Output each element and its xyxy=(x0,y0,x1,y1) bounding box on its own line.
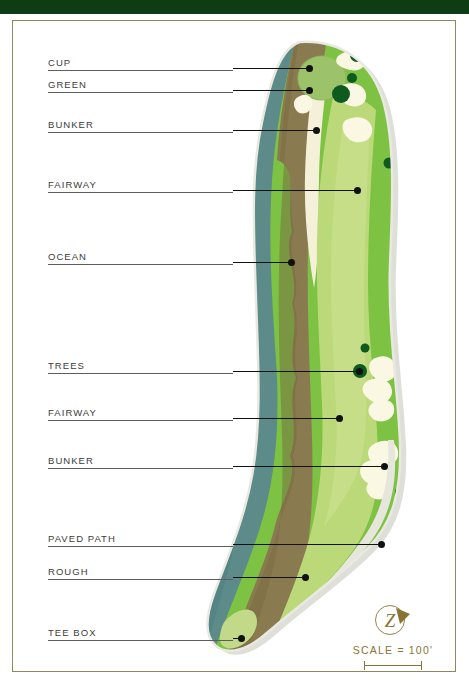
scale-label: SCALE = 100' xyxy=(339,644,447,656)
north-pointer-icon xyxy=(396,608,410,624)
leader-endpoint-dot xyxy=(336,415,343,422)
callout-label: OCEAN xyxy=(48,251,87,262)
callout-label: ROUGH xyxy=(48,566,89,577)
callout-underline xyxy=(48,132,233,133)
leader-line-rough xyxy=(233,577,306,578)
callout-label: PAVED PATH xyxy=(48,533,116,544)
callout-underline xyxy=(48,579,233,580)
scale-bar-line xyxy=(364,665,422,666)
leader-line-cup xyxy=(233,68,310,69)
callout-underline xyxy=(48,546,233,547)
leader-line-green xyxy=(233,90,310,91)
callout-underline xyxy=(48,640,233,641)
leader-endpoint-dot xyxy=(288,259,295,266)
callout-label: TEE BOX xyxy=(48,627,97,638)
callout-underline xyxy=(48,70,233,71)
leader-endpoint-dot xyxy=(381,463,388,470)
callout-underline xyxy=(48,420,233,421)
callout-label: BUNKER xyxy=(48,455,94,466)
callout-label: CUP xyxy=(48,57,71,68)
leader-line-ocean xyxy=(233,262,292,263)
callout-underline xyxy=(48,192,233,193)
diagram-page: CUPGREENBUNKERFAIRWAYOCEANTREESFAIRWAYBU… xyxy=(0,0,469,686)
callout-underline xyxy=(48,92,233,93)
scale-bar-tick-right xyxy=(421,661,422,670)
header-band xyxy=(0,0,469,14)
leader-line-trees xyxy=(233,371,360,372)
leader-line-fairway xyxy=(233,190,358,191)
callout-underline xyxy=(48,373,233,374)
leader-endpoint-dot xyxy=(313,127,320,134)
leader-endpoint-dot xyxy=(378,541,385,548)
leader-line-tee-box xyxy=(233,638,242,639)
callout-label: BUNKER xyxy=(48,119,94,130)
scale-bar xyxy=(364,661,422,670)
leader-line-bunker xyxy=(233,466,385,467)
leader-endpoint-dot xyxy=(306,65,313,72)
leader-endpoint-dot xyxy=(238,635,245,642)
leader-line-paved-path xyxy=(233,544,382,545)
logo-letter: Z xyxy=(385,610,396,631)
compass-logo: Z xyxy=(370,600,416,640)
scale-bar-tick-left xyxy=(364,661,365,670)
callout-label: TREES xyxy=(48,360,85,371)
callout-underline xyxy=(48,264,233,265)
leader-line-fairway xyxy=(233,418,340,419)
callout-label: GREEN xyxy=(48,79,87,90)
scale-block: Z SCALE = 100' xyxy=(339,600,447,670)
leader-endpoint-dot xyxy=(306,87,313,94)
callout-underline xyxy=(48,468,233,469)
leader-endpoint-dot xyxy=(354,187,361,194)
leader-endpoint-dot xyxy=(302,574,309,581)
callout-label: FAIRWAY xyxy=(48,407,97,418)
leader-endpoint-dot xyxy=(356,368,363,375)
callout-label: FAIRWAY xyxy=(48,179,97,190)
leader-line-bunker xyxy=(233,130,317,131)
